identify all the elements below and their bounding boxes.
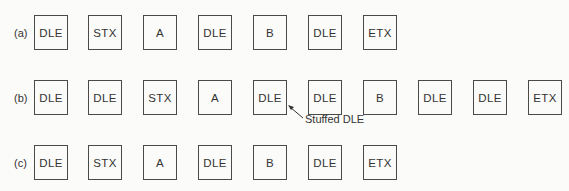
stuffed-dle-annotation: Stuffed DLE xyxy=(305,113,364,125)
row-c-cell: STX xyxy=(88,145,122,180)
row-c-cell: A xyxy=(143,145,177,180)
row-c-cell: B xyxy=(253,145,287,180)
row-c-label: (c) xyxy=(14,157,27,169)
row-c-cell: DLE xyxy=(198,145,232,180)
row-c-cell: DLE xyxy=(34,145,68,180)
row-c-cell: ETX xyxy=(363,145,397,180)
row-c-cell: DLE xyxy=(308,145,342,180)
